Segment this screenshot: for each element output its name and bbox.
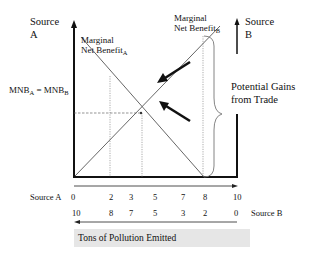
tick-a-5: 8 [203,193,207,202]
left-axis [71,20,77,178]
tick-b-4: 3 [181,209,185,218]
tick-a-1: 2 [109,193,113,202]
source-b-axis [74,220,237,224]
tick-b-3: 5 [153,209,157,218]
equilibrium-point [140,112,142,114]
tick-b-1: 8 [109,209,113,218]
mnb-a-curve [81,37,204,177]
tick-b-2: 7 [129,209,133,218]
shift-arrow-upper [157,62,190,83]
tick-a-4: 7 [181,193,185,202]
source-b-row-label: Source B [251,209,282,218]
tick-a-0: 0 [71,193,75,202]
shift-arrow-lower [159,101,190,121]
tick-a-6: 10 [233,193,242,202]
tick-a-2: 3 [129,193,133,202]
gains-brace [204,36,222,177]
source-b-axis-title: Source B [245,16,274,41]
tick-b-0: 10 [72,209,81,218]
mnb-a-label: Marginal Net BenefitA [81,35,127,58]
tick-b-6: 0 [234,209,238,218]
gains-from-trade-label: Potential Gains from Trade [231,81,295,106]
source-a-axis [74,184,238,188]
source-a-axis-title: Source A [30,16,59,41]
equilibrium-label: MNBA = MNBB [9,85,69,98]
mnb-b-label: Marginal Net BenefitB [174,13,220,36]
tick-a-3: 5 [153,193,157,202]
tick-b-5: 2 [203,209,207,218]
source-a-row-label: Source A [30,193,61,202]
x-axis-caption: Tons of Pollution Emitted [78,233,176,243]
